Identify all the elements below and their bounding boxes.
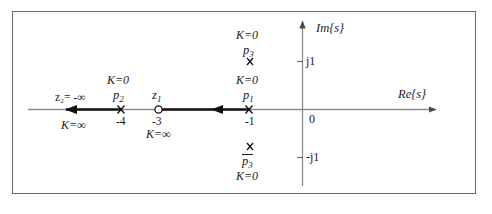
gain-label-k-infinity-left: K=∞ — [61, 119, 86, 131]
pole-label-p2-subscript: 2 — [119, 94, 124, 104]
value-label-minus4: -4 — [116, 116, 126, 128]
pole-label-p1: p1 — [243, 89, 254, 104]
value-label-minus3: -3 — [152, 116, 162, 128]
pole-label-p2: p2 — [113, 89, 124, 104]
pole-label-p3-subscript: 3 — [249, 49, 254, 59]
value-label-minus1: -1 — [245, 116, 255, 128]
locus-segment-right — [159, 105, 251, 114]
zero-marker-z1 — [155, 106, 162, 113]
imaginary-axis-label: Im{s} — [316, 22, 344, 35]
gain-label-k-infinity-z1: K=∞ — [146, 128, 171, 140]
real-axis-label: Re{s} — [398, 88, 426, 101]
gain-label-k-zero-p1: K=0 — [236, 74, 258, 86]
gain-label-k-zero-p3: K=0 — [236, 29, 258, 41]
pole-label-p3-conjugate: p3 — [242, 154, 253, 170]
gain-label-k-zero-p2: K=0 — [107, 74, 129, 86]
root-locus-figure: Im{s} Re{s} j1 -j1 0 z₂= -∞ K=∞ K=0 p2 -… — [0, 0, 492, 214]
zero-label-z1-subscript: 1 — [157, 94, 162, 104]
pole-label-p3: p3 — [243, 44, 254, 59]
tick-label-minus-j1: -j1 — [306, 151, 319, 163]
locus-direction-arrowhead — [211, 105, 223, 114]
pole-marker-p3-conjugate — [247, 143, 253, 150]
pole-marker-p3 — [247, 58, 253, 65]
zero-label-z1: z1 — [152, 89, 161, 104]
gain-label-k-zero-p3-conjugate: K=0 — [236, 170, 258, 182]
zero-z2-label: z₂= -∞ — [55, 92, 86, 104]
tick-label-j1: j1 — [306, 55, 315, 67]
origin-label: 0 — [309, 113, 315, 125]
pole-label-p1-subscript: 1 — [249, 94, 254, 104]
